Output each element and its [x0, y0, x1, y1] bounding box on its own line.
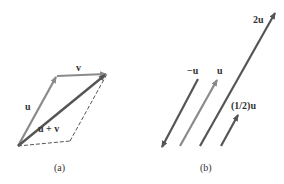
label-2u: 2u	[253, 14, 264, 25]
label-u-b: u	[217, 65, 223, 76]
label-u: u	[25, 101, 31, 112]
panel-a: u v u + v (a)	[18, 62, 107, 174]
caption-a: (a)	[54, 162, 65, 174]
vector-2u-arrow	[200, 13, 275, 146]
label-u-plus-v: u + v	[38, 123, 59, 134]
label-half-u: (1/2)u	[231, 100, 256, 112]
vector-sum-arrow	[18, 75, 105, 146]
vector-half-u-arrow	[221, 115, 238, 146]
vector-v-arrow	[57, 74, 106, 76]
panel-b: −u u 2u (1/2)u (b)	[162, 13, 275, 174]
vector-diagram: u v u + v (a) −u u 2u (1/2)u (b)	[0, 0, 284, 184]
dashed-parallelogram-right	[70, 74, 107, 141]
label-v: v	[76, 62, 81, 73]
label-neg-u: −u	[187, 65, 199, 76]
caption-b: (b)	[200, 162, 212, 174]
vector-u-arrow-b	[180, 80, 217, 146]
vector-neg-u-arrow	[162, 79, 198, 147]
dashed-parallelogram-bottom	[18, 141, 70, 146]
vector-u-arrow	[18, 77, 56, 146]
vector-figure: u v u + v (a) −u u 2u (1/2)u (b)	[0, 0, 284, 184]
